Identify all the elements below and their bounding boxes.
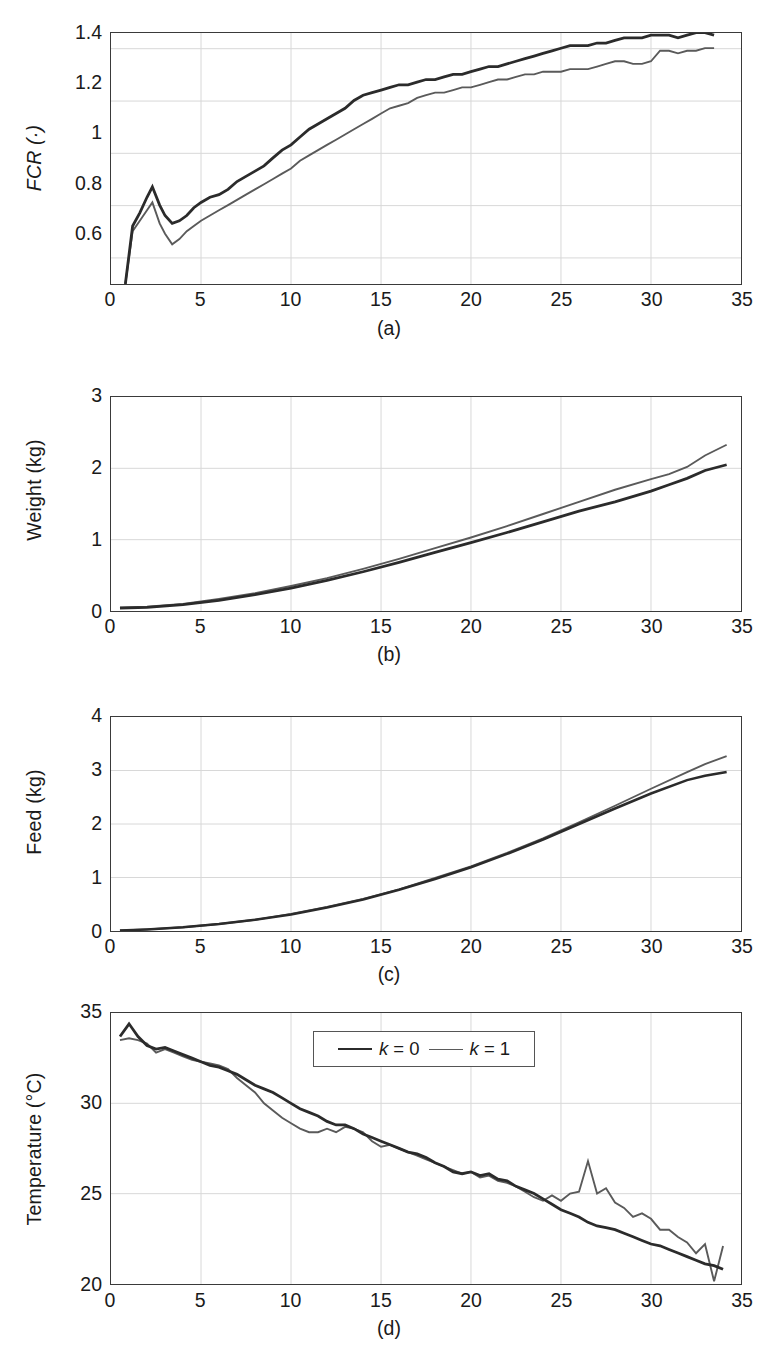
- panel-c-plot-area: [110, 716, 742, 932]
- panel-a-xtick-row: 0 5 10 15 20 25 30 35: [110, 290, 742, 312]
- panel-a-ytick-2: 1: [91, 123, 102, 143]
- panel-b-series-k1: [120, 445, 727, 608]
- panel-b-xtick-5: 25: [551, 617, 573, 637]
- panel-a-plot-area: [110, 32, 742, 285]
- panel-a-ytick-1: 0.8: [75, 174, 102, 194]
- panel-b-ytick-1: 1: [91, 530, 102, 550]
- panel-a-xtick-3: 15: [370, 290, 392, 310]
- panel-b-xtick-1: 5: [195, 617, 206, 637]
- panel-c-xtick-2: 10: [280, 937, 302, 957]
- panel-d-ytick-column: 20 25 30 35: [44, 1012, 102, 1285]
- panel-d: Temperature (°C) 20 25 30 35: [0, 1012, 778, 1352]
- panel-d-series-k1: [120, 1038, 723, 1281]
- panel-a: FCR (·) 0.6 0.8 1 1.2 1.4: [0, 0, 778, 340]
- panel-a-series-k1: [125, 48, 714, 284]
- panel-d-xtick-6: 30: [641, 1291, 663, 1311]
- panel-a-ytick-column: 0.6 0.8 1 1.2 1.4: [44, 0, 102, 285]
- panel-a-ylabel: FCR (·): [23, 125, 46, 191]
- panel-c-xtick-5: 25: [551, 937, 573, 957]
- panel-c-xtick-6: 30: [641, 937, 663, 957]
- legend-swatch-k1-icon: [429, 1049, 463, 1050]
- panel-a-gridlines: [111, 33, 741, 284]
- panel-d-ytick-1: 25: [80, 1184, 102, 1204]
- legend-entry-k0: k = 0: [338, 1038, 420, 1060]
- panel-b-ylabel: Weight (kg): [23, 439, 46, 541]
- panel-c-ytick-1: 1: [91, 868, 102, 888]
- panel-c-xtick-7: 35: [731, 937, 753, 957]
- legend-label-k0-symbol: k: [379, 1038, 388, 1059]
- panel-a-xtick-4: 20: [460, 290, 482, 310]
- panel-d-xtick-4: 20: [460, 1291, 482, 1311]
- panel-c-caption: (c): [0, 963, 778, 986]
- panel-a-series-k0: [125, 33, 714, 284]
- panel-c-ytick-3: 3: [91, 760, 102, 780]
- panel-a-xtick-5: 25: [551, 290, 573, 310]
- panel-b-gridlines: [111, 397, 741, 611]
- panel-b-xtick-3: 15: [370, 617, 392, 637]
- panel-c-xtick-1: 5: [195, 937, 206, 957]
- panel-b-xtick-2: 10: [280, 617, 302, 637]
- panel-c-svg: [111, 717, 741, 931]
- legend-label-k1-value: = 1: [479, 1038, 510, 1059]
- panel-d-xtick-7: 35: [731, 1291, 753, 1311]
- panel-c-ytick-0: 0: [91, 922, 102, 942]
- panel-b-svg: [111, 397, 741, 611]
- panel-b-xtick-6: 30: [641, 617, 663, 637]
- panel-b-ytick-2: 2: [91, 458, 102, 478]
- panel-b-series-k0: [120, 465, 727, 608]
- legend-label-k1-symbol: k: [470, 1038, 479, 1059]
- legend-label-k0-value: = 0: [388, 1038, 419, 1059]
- panel-b-ytick-0: 0: [91, 602, 102, 622]
- panel-b-xtick-row: 0 5 10 15 20 25 30 35: [110, 617, 742, 639]
- legend-swatch-k0-icon: [338, 1048, 372, 1050]
- panel-d-xtick-3: 15: [370, 1291, 392, 1311]
- panel-c-xtick-row: 0 5 10 15 20 25 30 35: [110, 937, 742, 959]
- panel-c-series-k1: [120, 756, 727, 930]
- legend-entry-k1: k = 1: [429, 1038, 511, 1060]
- panel-b-xtick-7: 35: [731, 617, 753, 637]
- legend-label-k1: k = 1: [470, 1038, 511, 1060]
- panel-d-caption: (d): [0, 1317, 778, 1340]
- panel-a-xtick-2: 10: [280, 290, 302, 310]
- panel-a-ytick-0: 0.6: [75, 224, 102, 244]
- panel-d-plot-area: k = 0 k = 1: [110, 1012, 742, 1285]
- legend-box: k = 0 k = 1: [313, 1031, 535, 1067]
- figure-panel-grid: FCR (·) 0.6 0.8 1 1.2 1.4: [0, 0, 778, 1352]
- panel-c-ytick-column: 0 1 2 3 4: [44, 660, 102, 948]
- panel-a-xtick-0: 0: [105, 290, 116, 310]
- panel-c-ytick-2: 2: [91, 814, 102, 834]
- panel-a-svg: [111, 33, 741, 284]
- panel-a-caption: (a): [0, 317, 778, 340]
- panel-a-xtick-1: 5: [195, 290, 206, 310]
- panel-c-xtick-0: 0: [105, 937, 116, 957]
- panel-d-ytick-2: 30: [80, 1093, 102, 1113]
- panel-d-ytick-3: 35: [80, 1002, 102, 1022]
- panel-d-xtick-1: 5: [195, 1291, 206, 1311]
- panel-d-ylabel: Temperature (°C): [23, 1073, 46, 1226]
- panel-b-plot-area: [110, 396, 742, 612]
- panel-c-ylabel: Feed (kg): [23, 769, 46, 854]
- panel-c: Feed (kg) 0 1 2 3 4: [0, 660, 778, 1012]
- panel-d-xtick-row: 0 5 10 15 20 25 30 35: [110, 1291, 742, 1313]
- panel-d-ytick-0: 20: [80, 1275, 102, 1295]
- panel-b-xtick-4: 20: [460, 617, 482, 637]
- panel-b-ytick-3: 3: [91, 386, 102, 406]
- panel-b-xtick-0: 0: [105, 617, 116, 637]
- panel-a-ytick-4: 1.4: [75, 23, 102, 43]
- panel-d-xtick-0: 0: [105, 1291, 116, 1311]
- panel-a-xtick-6: 30: [641, 290, 663, 310]
- panel-a-ytick-3: 1.2: [75, 73, 102, 93]
- panel-b-ytick-column: 0 1 2 3: [44, 340, 102, 620]
- panel-a-xtick-7: 35: [731, 290, 753, 310]
- panel-d-xtick-2: 10: [280, 1291, 302, 1311]
- panel-c-gridlines: [111, 717, 741, 931]
- panel-c-ytick-4: 4: [91, 706, 102, 726]
- panel-c-xtick-3: 15: [370, 937, 392, 957]
- panel-c-xtick-4: 20: [460, 937, 482, 957]
- legend-label-k0: k = 0: [379, 1038, 420, 1060]
- panel-b: Weight (kg) 0 1 2 3: [0, 340, 778, 660]
- panel-d-xtick-5: 25: [551, 1291, 573, 1311]
